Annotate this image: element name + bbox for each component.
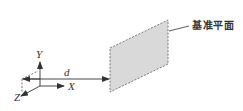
reference-plane (110, 20, 168, 92)
z-axis-label: Z (14, 92, 20, 103)
x-axis-label: X (68, 81, 75, 92)
distance-label: d (64, 67, 70, 78)
dashed-guide-top (22, 71, 38, 79)
plane-label-leader (169, 26, 189, 31)
plane-label: 基准平面 (192, 21, 234, 31)
y-axis-label: Y (36, 49, 42, 60)
z-axis (21, 86, 40, 96)
